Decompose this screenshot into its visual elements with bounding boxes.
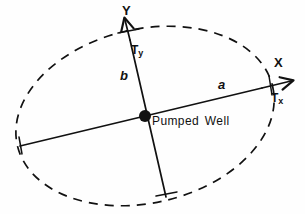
- tensor-tx-subscript: x: [278, 96, 283, 106]
- tensor-label-tx: Tx: [271, 92, 283, 104]
- diagram-svg: [0, 0, 305, 214]
- figure-canvas: Y X Ty Tx a b Pumped Well: [0, 0, 305, 214]
- axis-label-x: X: [274, 56, 283, 69]
- semi-major-label-a: a: [218, 78, 225, 91]
- tensor-ty-subscript: y: [138, 48, 143, 58]
- semi-minor-label-b: b: [120, 69, 128, 82]
- tensor-label-ty: Ty: [131, 44, 143, 56]
- minor-axis-arrow: [125, 20, 130, 40]
- axis-label-y: Y: [122, 4, 131, 17]
- filled-circle-icon: [139, 110, 151, 122]
- major-axis-arrow: [262, 81, 291, 88]
- pumped-well-caption: Pumped Well: [152, 115, 230, 127]
